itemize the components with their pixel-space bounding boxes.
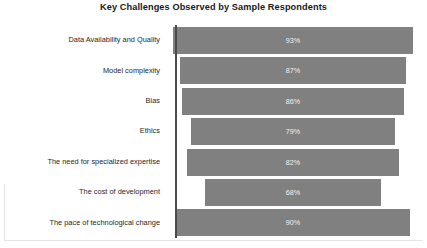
bar-track: 82% — [0, 149, 427, 176]
chart-container: Key Challenges Observed by Sample Respon… — [0, 0, 427, 248]
bar-value-label: 79% — [286, 127, 301, 136]
bar-value-label: 68% — [286, 188, 301, 197]
bar[interactable]: 79% — [191, 118, 396, 145]
bar-track: 90% — [0, 209, 427, 236]
bar-row: Model complexity87% — [0, 57, 427, 84]
bar[interactable]: 68% — [205, 179, 381, 206]
plot-area: Data Availability and Quality93%Model co… — [0, 25, 427, 240]
bar-row: The pace of technological change90% — [0, 209, 427, 236]
bar-row: Data Availability and Quality93% — [0, 27, 427, 54]
bar-value-label: 90% — [286, 218, 301, 227]
bar[interactable]: 90% — [176, 209, 409, 236]
bar-value-label: 93% — [286, 36, 301, 45]
category-axis-line — [175, 25, 177, 238]
bar-track: 79% — [0, 118, 427, 145]
chart-frame-bottom-border — [4, 240, 423, 241]
bar-value-label: 86% — [286, 97, 301, 106]
bar-track: 86% — [0, 88, 427, 115]
bar-track: 93% — [0, 27, 427, 54]
bar-row: The cost of development68% — [0, 179, 427, 206]
bar[interactable]: 93% — [173, 27, 414, 54]
bar-value-label: 87% — [286, 66, 301, 75]
bar-track: 68% — [0, 179, 427, 206]
chart-title: Key Challenges Observed by Sample Respon… — [0, 2, 427, 12]
bar-row: Ethics79% — [0, 118, 427, 145]
bar-track: 87% — [0, 57, 427, 84]
bar-row: The need for specialized expertise82% — [0, 149, 427, 176]
bar-value-label: 82% — [286, 158, 301, 167]
bar[interactable]: 82% — [187, 149, 399, 176]
bar[interactable]: 87% — [180, 57, 405, 84]
bar-row: Bias86% — [0, 88, 427, 115]
bar[interactable]: 86% — [182, 88, 405, 115]
